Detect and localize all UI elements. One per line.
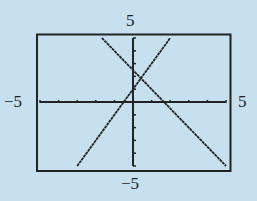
axes: [40, 38, 226, 166]
graph-plot: [0, 0, 257, 201]
